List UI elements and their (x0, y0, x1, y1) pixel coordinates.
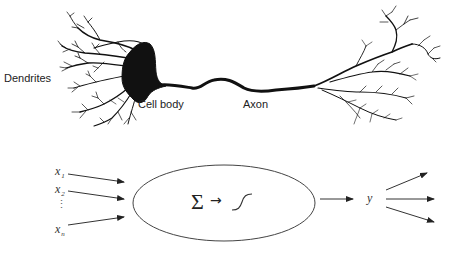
summation-symbol: Σ (191, 189, 204, 215)
output-label-y: y (367, 191, 372, 206)
artificial-neuron-model (0, 0, 452, 253)
input-arrow-n (68, 217, 124, 225)
input-label-x2: x2 (55, 182, 65, 198)
input-arrow-1 (68, 174, 124, 182)
arrow-symbol: → (210, 192, 222, 208)
output-arrow-up (386, 173, 427, 190)
input-label-x1: x1 (55, 164, 65, 180)
neuron-node-ellipse (133, 165, 315, 241)
input-label-xn: xn (55, 222, 65, 238)
input-arrow-2 (68, 191, 124, 199)
sigmoid-icon (232, 194, 252, 210)
output-arrow-down (386, 207, 434, 222)
input-ellipsis: ⋮ (56, 198, 67, 211)
neuron-diagram: Dendrites Cell body Axon x1 x2 ⋮ xn Σ → … (0, 0, 452, 253)
